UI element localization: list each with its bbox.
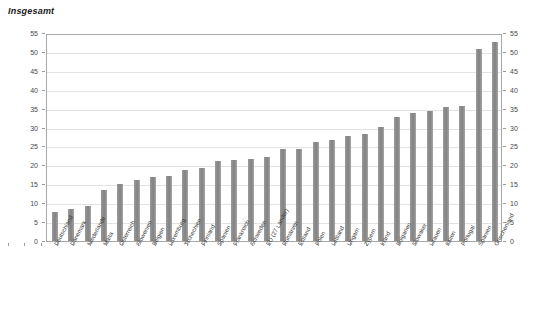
y-axis-tick-mark-right	[503, 241, 506, 242]
x-axis-tick-mark	[334, 243, 335, 246]
x-axis-tick-mark	[383, 243, 384, 246]
x-axis-tick-mark	[301, 243, 302, 246]
y-axis-tick-mark-left	[42, 71, 45, 72]
bar	[296, 149, 302, 241]
bar	[248, 159, 254, 241]
y-axis-tick-mark-left	[42, 109, 45, 110]
x-axis-tick-mark	[269, 243, 270, 246]
y-axis-tick-label-right: 45	[510, 68, 538, 75]
chart-title: Insgesamt	[8, 6, 54, 16]
x-axis-tick-mark	[415, 243, 416, 246]
bar	[459, 106, 465, 241]
bar	[313, 142, 319, 241]
bar	[345, 136, 351, 242]
bar	[231, 160, 237, 241]
x-axis-tick-mark	[318, 243, 319, 246]
y-axis-tick-mark-right	[503, 128, 506, 129]
y-axis-tick-label-right: 25	[510, 143, 538, 150]
bar	[476, 49, 482, 241]
y-axis-tick-mark-right	[503, 109, 506, 110]
bar	[264, 157, 270, 241]
x-axis-tick-mark	[41, 243, 42, 246]
x-axis-tick-mark	[138, 243, 139, 246]
y-axis-tick-mark-left	[42, 52, 45, 53]
y-axis-tick-mark-left	[42, 184, 45, 185]
y-axis-tick-label-right: 0	[510, 238, 538, 245]
x-axis-tick-mark	[187, 243, 188, 246]
y-axis-tick-label-left: 10	[10, 200, 38, 207]
bar	[378, 127, 384, 241]
bar	[280, 149, 286, 241]
x-axis-tick-mark	[57, 243, 58, 246]
x-axis-tick-mark	[366, 243, 367, 246]
bar	[492, 42, 498, 241]
y-axis-tick-label-left: 35	[10, 106, 38, 113]
y-axis-tick-label-right: 55	[510, 30, 538, 37]
x-axis-tick-mark	[236, 243, 237, 246]
x-axis-tick-mark	[122, 243, 123, 246]
y-axis-tick-mark-left	[42, 33, 45, 34]
y-axis-tick-mark-left	[42, 146, 45, 147]
y-axis-tick-mark-right	[503, 33, 506, 34]
bar	[215, 161, 221, 241]
y-axis-tick-label-right: 5	[510, 219, 538, 226]
y-axis-tick-mark-left	[42, 128, 45, 129]
y-axis-tick-label-left: 20	[10, 162, 38, 169]
x-axis-category-labels: DeutschlandDänemarkNiederlandeMaltaÖster…	[46, 244, 502, 311]
bar	[410, 113, 416, 241]
x-axis-tick-mark	[220, 243, 221, 246]
y-axis-tick-mark-right	[503, 71, 506, 72]
bar	[117, 184, 123, 241]
bar	[362, 134, 368, 241]
x-axis-tick-mark	[155, 243, 156, 246]
y-axis-tick-mark-left	[42, 241, 45, 242]
x-axis-tick-mark	[350, 243, 351, 246]
y-axis-tick-label-right: 40	[510, 87, 538, 94]
y-axis-tick-mark-left	[42, 90, 45, 91]
y-axis-tick-mark-right	[503, 165, 506, 166]
bar	[394, 117, 400, 241]
y-axis-tick-mark-left	[42, 222, 45, 223]
y-axis-tick-label-right: 20	[510, 162, 538, 169]
y-axis-tick-label-right: 30	[510, 125, 538, 132]
x-axis-tick-mark	[252, 243, 253, 246]
x-axis-tick-mark	[204, 243, 205, 246]
y-axis-tick-label-left: 45	[10, 68, 38, 75]
y-axis-tick-label-right: 15	[510, 181, 538, 188]
bar	[199, 168, 205, 241]
y-axis-tick-label-left: 25	[10, 143, 38, 150]
y-axis-tick-mark-right	[503, 203, 506, 204]
plot-area	[46, 34, 502, 242]
y-axis-tick-label-right: 50	[510, 49, 538, 56]
y-axis-tick-mark-right	[503, 184, 506, 185]
y-axis-tick-label-right: 10	[510, 200, 538, 207]
x-axis-tick-mark	[399, 243, 400, 246]
x-axis-tick-mark	[8, 243, 9, 246]
bar	[427, 111, 433, 241]
y-axis-tick-label-left: 55	[10, 30, 38, 37]
y-axis-tick-label-left: 30	[10, 125, 38, 132]
y-axis-tick-label-left: 5	[10, 219, 38, 226]
bar	[182, 170, 188, 241]
x-axis-tick-mark	[106, 243, 107, 246]
y-axis-tick-mark-left	[42, 165, 45, 166]
bar	[443, 107, 449, 241]
x-axis-tick-mark	[24, 243, 25, 246]
bar	[329, 140, 335, 241]
y-axis-tick-mark-left	[42, 203, 45, 204]
bar-chart: Insgesamt 0510152025303540455055 0510152…	[0, 0, 540, 311]
x-axis-tick-mark	[171, 243, 172, 246]
bars-group	[47, 35, 501, 241]
y-axis-tick-mark-right	[503, 90, 506, 91]
x-axis-tick-mark	[73, 243, 74, 246]
x-axis-tick-mark	[448, 243, 449, 246]
bar	[166, 176, 172, 241]
y-axis-tick-label-right: 35	[510, 106, 538, 113]
x-axis-tick-mark	[285, 243, 286, 246]
y-axis-tick-mark-right	[503, 146, 506, 147]
x-axis-tick-mark	[90, 243, 91, 246]
y-axis-tick-label-left: 40	[10, 87, 38, 94]
y-axis-tick-label-left: 15	[10, 181, 38, 188]
y-axis-tick-label-left: 50	[10, 49, 38, 56]
bar	[150, 177, 156, 241]
